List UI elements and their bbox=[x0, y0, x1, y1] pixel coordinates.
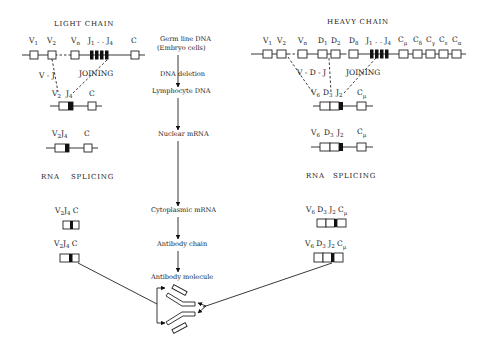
heavy-chain-title: HEAVY CHAIN bbox=[327, 18, 389, 26]
light-germline-dna bbox=[22, 51, 145, 60]
svg-text:V6: V6 bbox=[310, 128, 320, 138]
cytoplasmic-mrna-label: Cytoplasmic mRNA bbox=[151, 206, 216, 214]
svg-text:Cμ: Cμ bbox=[357, 127, 367, 139]
light-nuclear-labels: V2J4 C bbox=[51, 129, 90, 139]
svg-text:V1: V1 bbox=[262, 36, 272, 46]
svg-text:D3: D3 bbox=[324, 128, 334, 138]
svg-text:J1 . . J4: J1 . . J4 bbox=[365, 36, 391, 46]
light-chain-panel: LIGHT CHAIN V1 V2 Vn J1 . . J4 C V - J bbox=[22, 20, 145, 262]
light-rna-label: RNA bbox=[41, 173, 60, 181]
germline-dna-label: Germ line DNA bbox=[160, 35, 211, 43]
svg-text:V2: V2 bbox=[46, 36, 56, 46]
svg-text:J2: J2 bbox=[335, 88, 343, 98]
svg-text:Cμ: Cμ bbox=[398, 35, 408, 47]
svg-text:Vn: Vn bbox=[297, 36, 307, 46]
dna-deletion-label: DNA deletion bbox=[160, 70, 206, 78]
heavy-rna-label: RNA bbox=[306, 172, 325, 180]
heavy-joining-label: JOINING bbox=[345, 68, 380, 77]
light-cyto-label: V2J4 C bbox=[54, 206, 79, 216]
heavy-vdj-label: V - D - J bbox=[296, 68, 326, 77]
svg-text:Cε: Cε bbox=[439, 35, 448, 46]
immunoglobulin-gene-rearrangement-diagram: LIGHT CHAIN V1 V2 Vn J1 . . J4 C V - J bbox=[0, 0, 487, 343]
svg-text:C: C bbox=[84, 129, 90, 138]
heavy-lymphocyte-dna bbox=[313, 102, 373, 110]
svg-text:Vn: Vn bbox=[70, 36, 80, 46]
light-joining-label: JOINING bbox=[78, 69, 113, 78]
heavy-splicing-label: SPLICING bbox=[333, 172, 376, 180]
svg-text:D2: D2 bbox=[331, 36, 341, 46]
svg-text:C: C bbox=[131, 36, 137, 45]
nuclear-mrna-label: Nuclear mRNA bbox=[158, 130, 209, 138]
embryo-cells-label: (Embryo cells) bbox=[157, 44, 206, 52]
heavy-nuclear-labels: V6 D3 J2 Cμ bbox=[310, 127, 367, 139]
light-vj-label: V - J bbox=[38, 71, 55, 80]
center-flow: Germ line DNA (Embryo cells) DNA deletio… bbox=[150, 35, 216, 281]
heavy-germline-dna bbox=[251, 50, 466, 59]
light-germline-labels: V1 V2 Vn J1 . . J4 C bbox=[28, 36, 137, 46]
light-chain-label: V2J4 C bbox=[53, 239, 78, 249]
light-chain-title: LIGHT CHAIN bbox=[54, 20, 114, 28]
heavy-rearranged-labels: V6 D3 J2 Cμ bbox=[310, 88, 367, 100]
svg-text:V2: V2 bbox=[51, 89, 61, 99]
heavy-germline-labels: V1 V2 Vn D1 D2 D8 J1 . . J4 Cμ Cδ Cγ Cε … bbox=[262, 35, 462, 47]
light-splicing-label: SPLICING bbox=[71, 173, 114, 181]
svg-text:Cμ: Cμ bbox=[357, 88, 367, 100]
svg-text:V2J4: V2J4 bbox=[51, 129, 68, 139]
lymphocyte-dna-label: Lymphocyte DNA bbox=[152, 87, 211, 95]
svg-text:Cγ: Cγ bbox=[426, 35, 436, 47]
svg-text:J4: J4 bbox=[65, 89, 73, 99]
light-nuclear-mrna bbox=[46, 144, 98, 152]
antibody-chain-label: Antibody chain bbox=[156, 240, 208, 248]
svg-text:Cδ: Cδ bbox=[413, 35, 423, 46]
heavy-cyto-label: V6 D3 J2 Cμ bbox=[305, 205, 348, 217]
svg-text:D1: D1 bbox=[318, 36, 328, 46]
antibody-molecule-icon bbox=[166, 285, 195, 334]
heavy-nuclear-mrna bbox=[311, 143, 373, 151]
heavy-chain-label: V6 D3 J2 Cμ bbox=[304, 239, 347, 251]
svg-text:J1 . . J4: J1 . . J4 bbox=[87, 36, 113, 46]
svg-text:D8: D8 bbox=[349, 36, 359, 46]
svg-text:V2: V2 bbox=[276, 36, 286, 46]
heavy-chain-panel: HEAVY CHAIN V1 V2 Vn D1 D2 D8 J1 . . J4 … bbox=[251, 18, 466, 262]
light-chain-assembly-arrows bbox=[78, 263, 165, 323]
svg-text:V6: V6 bbox=[310, 88, 320, 98]
heavy-antibody-chain bbox=[314, 253, 343, 262]
svg-text:C: C bbox=[89, 89, 95, 98]
svg-text:J2: J2 bbox=[336, 128, 344, 138]
heavy-chain-assembly-arrows bbox=[198, 263, 332, 313]
light-lymphocyte-dna bbox=[50, 102, 102, 110]
svg-text:V1: V1 bbox=[28, 36, 38, 46]
light-cytoplasmic-mrna bbox=[63, 221, 79, 229]
svg-text:Cα: Cα bbox=[452, 35, 462, 46]
antibody-molecule-label: Antibody molecule bbox=[150, 273, 213, 281]
light-antibody-chain bbox=[60, 254, 79, 262]
heavy-cytoplasmic-mrna bbox=[317, 219, 346, 227]
svg-text:D3: D3 bbox=[323, 88, 333, 98]
